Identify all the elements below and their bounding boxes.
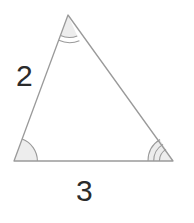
angle-fill-apex: [61, 15, 78, 37]
triangle-outline: [14, 15, 173, 161]
geometry-diagram: 2 3: [0, 0, 194, 223]
side-label-bottom: 3: [76, 176, 93, 206]
side-label-left: 2: [16, 61, 33, 91]
triangle-figure: [0, 0, 194, 223]
